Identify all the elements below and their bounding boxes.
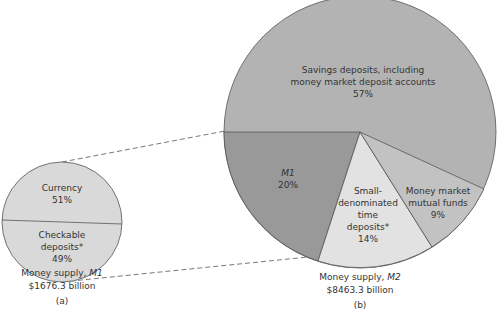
connector-top [62,131,225,162]
small-label-text-2: denominated [335,197,401,209]
caption-b-prefix: Money supply, [319,272,387,282]
currency-label-text: Currency [32,182,92,194]
savings-label-text-1: Savings deposits, including [278,64,448,76]
checkable-label-text-1: Checkable [22,229,102,241]
caption-a: Money supply, M1 $1676.3 billion (a) [2,267,122,308]
m1-pct: 20% [268,179,308,191]
savings-label-text-2: money market deposit accounts [278,76,448,88]
mmf-label: Money market mutual funds 9% [400,185,476,221]
small-label-text-4: deposits* [335,221,401,233]
small-pct: 14% [335,233,401,245]
small-denominated-label: Small- denominated time deposits* 14% [335,185,401,245]
small-label-text-1: Small- [335,185,401,197]
mmf-pct: 9% [400,209,476,221]
caption-a-title: Money supply, M1 [2,267,122,280]
m1-label-text: M1 [268,167,308,179]
checkable-pct: 49% [22,253,102,265]
mmf-label-text-1: Money market [400,185,476,197]
caption-b-total: $8463.3 billion [300,284,420,297]
m1-label: M1 20% [268,167,308,191]
caption-a-prefix: Money supply, [21,268,89,278]
caption-b: Money supply, M2 $8463.3 billion (b) [300,271,420,312]
caption-b-var: M2 [387,272,401,282]
savings-pct: 57% [278,88,448,100]
currency-label: Currency 51% [32,182,92,206]
caption-a-var: M1 [89,268,103,278]
caption-b-panel: (b) [300,299,420,312]
checkable-label: Checkable deposits* 49% [22,229,102,265]
checkable-label-text-2: deposits* [22,241,102,253]
mmf-label-text-2: mutual funds [400,197,476,209]
currency-pct: 51% [32,194,92,206]
caption-a-panel: (a) [2,295,122,308]
caption-b-title: Money supply, M2 [300,271,420,284]
caption-a-total: $1676.3 billion [2,280,122,293]
small-label-text-3: time [335,209,401,221]
savings-label: Savings deposits, including money market… [278,64,448,100]
